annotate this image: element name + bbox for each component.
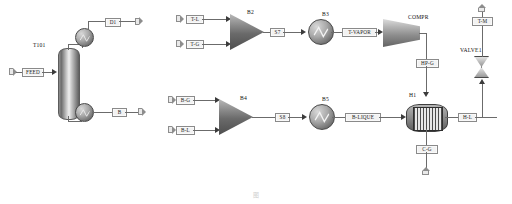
compressor-block[interactable] [383,19,420,47]
bl-line [193,130,217,131]
block-label-compr: COMPR [408,14,429,20]
reboiler-heat-exchanger[interactable] [75,103,94,122]
bg-line [193,100,217,101]
heat-exchanger-zigzag-icon [314,109,329,124]
stream-label-b-lique[interactable]: B-LIQUE [345,113,381,122]
tl-source-terminator [176,15,183,22]
stream-label-h-l[interactable]: H-L [458,113,477,122]
heat-exchanger-zigzag-icon [79,32,90,43]
feed-arrowhead [52,69,57,75]
tube-bundle-icon [413,107,444,131]
block-label-b5: B5 [322,96,329,102]
stream-label-b[interactable]: B [112,108,127,117]
tg-source-terminator [176,40,183,47]
mixer-triangle-icon [219,99,253,135]
s7-arrowhead [301,29,306,35]
stream-label-t-vapor[interactable]: T-VAPOR [342,28,377,37]
d1-sink-terminator [135,18,142,25]
stream-label-d1[interactable]: D1 [105,18,121,27]
blique-line-a [332,117,346,118]
stream-label-s7[interactable]: S7 [270,28,285,37]
valve-lower-triangle-icon [474,67,489,78]
tvapor-arrowhead [378,29,383,35]
tl-line [202,19,227,20]
hl-line-a [445,117,459,118]
block-label-h1: H1 [409,92,416,98]
hl-riser [482,84,483,117]
s7-line-b [283,32,303,33]
valve1-block[interactable] [474,56,489,78]
hpg-drop [426,66,427,94]
stream-label-t-m[interactable]: T-M [472,17,493,26]
heat-exchanger-zigzag-icon [79,107,90,118]
hl-line-b [475,117,497,118]
block-label-b3: B3 [322,11,329,17]
blique-line-b [379,117,403,118]
stream-label-hp-g[interactable]: HP-G [416,59,439,68]
process-flow-diagram: T101 FEED D1 B T-L T-G B2 S7 [0,0,512,204]
d1-line-a [88,21,105,22]
d1-line-b [119,21,136,22]
figure-caption: 图 [0,190,512,199]
tg-line [202,44,227,45]
hpg-arrowhead [423,92,429,97]
mixer-block-b4[interactable] [219,99,253,135]
stream-label-b-g[interactable]: B-G [176,96,195,105]
stream-label-b-l[interactable]: B-L [176,126,195,135]
hl-arrowhead [479,79,485,84]
block-label-valve1: VALVE1 [460,47,482,53]
feed-source-terminator [9,68,16,75]
condenser-heat-exchanger[interactable] [75,28,94,47]
s8-line-a [252,117,276,118]
s8-arrowhead [302,114,307,120]
cg-line-a [426,129,427,145]
tm-sink-terminator [478,5,485,12]
shell-tube-exchanger-h1[interactable] [406,104,448,132]
cg-sink-terminator [422,168,429,175]
mixer-triangle-icon [230,14,264,50]
stream-label-s8[interactable]: S8 [275,113,290,122]
mixer-block-b2[interactable] [230,14,264,50]
stream-label-t-g[interactable]: T-G [186,40,204,49]
heat-exchanger-zigzag-icon [313,24,328,39]
stream-label-t-l[interactable]: T-L [186,15,204,24]
bl-source-terminator [168,126,175,133]
bg-source-terminator [168,96,175,103]
valve-upper-triangle-icon [474,56,489,67]
tm-riser [482,24,483,57]
stream-label-feed[interactable]: FEED [22,68,44,77]
stream-label-c-g[interactable]: C-G [416,145,438,154]
hpg-riser [426,33,427,59]
block-label-t101: T101 [33,42,46,48]
b-sink-terminator [138,108,145,115]
b-line-a [92,112,112,113]
b-line-b [125,112,139,113]
condenser-outlet-riser [88,21,89,30]
